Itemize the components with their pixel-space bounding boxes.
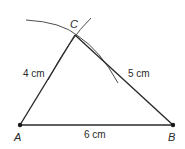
triangle-diagram: C A B 4 cm 5 cm 6 cm <box>0 0 185 149</box>
vertex-c-label: C <box>70 18 78 30</box>
side-ab-label: 6 cm <box>84 129 106 140</box>
vertex-b-dot <box>171 123 175 127</box>
side-ac <box>20 35 75 125</box>
side-bc-label: 5 cm <box>128 68 150 79</box>
vertex-b-label: B <box>168 131 175 143</box>
vertex-a-label: A <box>13 131 21 143</box>
side-ac-label: 4 cm <box>23 68 45 79</box>
vertex-a-dot <box>18 123 22 127</box>
side-bc <box>75 35 173 125</box>
